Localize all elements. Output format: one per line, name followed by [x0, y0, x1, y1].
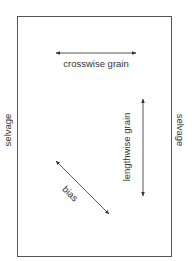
fabric-grain-diagram: crosswise grain lengthwise grain bias se… — [0, 0, 192, 261]
lengthwise-grain-label: lengthwise grain — [121, 113, 132, 182]
crosswise-grain-label: crosswise grain — [63, 58, 128, 69]
bias-label: bias — [60, 183, 80, 203]
selvage-left-label: selvage — [2, 114, 13, 147]
selvage-right-label: selvage — [175, 114, 186, 147]
fabric-outline — [18, 17, 172, 257]
